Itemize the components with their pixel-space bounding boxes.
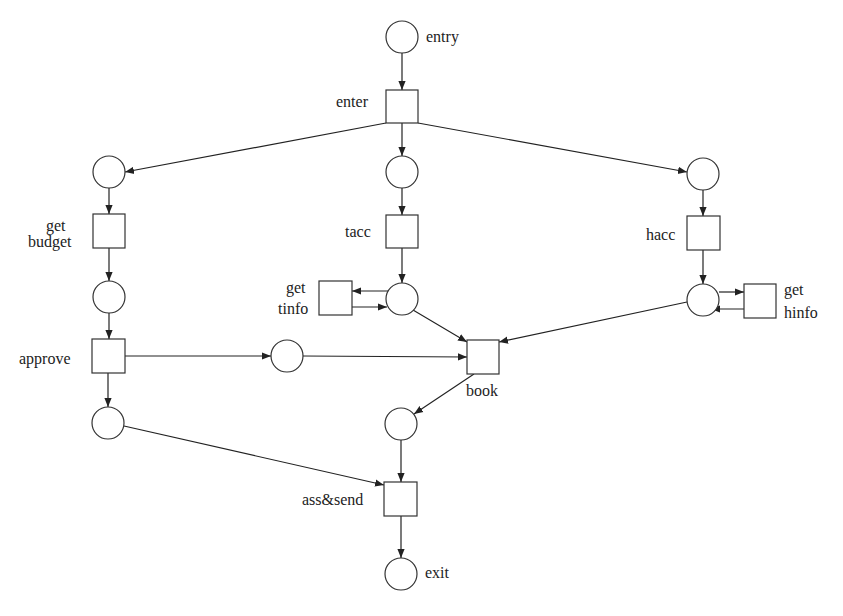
transition-ass-send (384, 482, 417, 516)
place-hinfo (687, 284, 719, 316)
petri-net-diagram: entry enter get budget tacc hacc get tin… (0, 0, 843, 616)
arc-book-booked-place (414, 374, 474, 414)
transition-enter (386, 90, 418, 123)
transition-book (467, 340, 499, 374)
transition-tacc (386, 215, 418, 248)
label-exit: exit (425, 564, 450, 581)
place-budget-in (93, 156, 125, 188)
place-approve-out (92, 407, 124, 439)
arc-enter-budget-place (125, 123, 386, 172)
place-entry (386, 21, 418, 53)
label-get-hinfo-1: get (784, 281, 804, 299)
place-tinfo (386, 283, 418, 315)
arc-enter-hacc-place (418, 123, 687, 172)
label-get-tinfo-2: tinfo (278, 300, 308, 317)
label-tacc: tacc (345, 223, 371, 240)
transition-get-hinfo (744, 284, 776, 318)
label-get-tinfo-1: get (286, 279, 306, 297)
transition-approve (92, 339, 125, 373)
arc-place-asssend (124, 426, 384, 485)
arc-hinfo-place-book (499, 302, 687, 342)
transition-get-budget (93, 214, 125, 248)
place-hacc-in (687, 158, 719, 190)
label-book: book (466, 382, 498, 399)
label-approve: approve (19, 350, 71, 368)
label-entry: entry (426, 28, 459, 46)
arc-tinfo-place-book (413, 310, 467, 342)
label-hacc: hacc (646, 226, 675, 243)
place-budget-out (93, 281, 125, 313)
transitions (92, 90, 776, 516)
transition-hacc (687, 216, 720, 250)
place-approved (271, 340, 303, 372)
arc-approved-place-book (303, 356, 467, 357)
label-ass-send: ass&send (302, 491, 363, 508)
arcs (108, 53, 744, 558)
place-exit (385, 558, 417, 590)
label-get-hinfo-2: hinfo (784, 304, 818, 321)
label-get-budget-2: budget (28, 233, 72, 251)
place-tacc-in (386, 156, 418, 188)
transition-get-tinfo (319, 281, 352, 315)
label-enter: enter (336, 93, 369, 110)
place-booked (385, 408, 417, 440)
